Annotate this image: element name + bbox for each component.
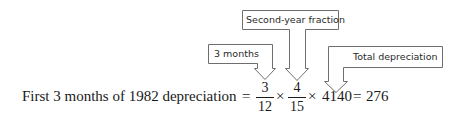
times-sign: × [276, 89, 284, 104]
fraction-numerator: 3 [256, 81, 274, 97]
fraction-three-twelfths: 3 12 [256, 81, 274, 114]
equals-sign: = [242, 89, 250, 104]
equals-sign: = [353, 89, 361, 104]
depreciation-figure: 3 months Second-year fraction Total depr… [0, 0, 467, 120]
fraction-four-fifteenths: 4 15 [288, 81, 306, 114]
second-year-fraction-label: Second-year fraction [246, 15, 345, 25]
fraction-numerator: 4 [288, 81, 306, 97]
total-value: 4140 [322, 89, 352, 104]
three-months-label: 3 months [214, 49, 259, 59]
times-sign: × [308, 89, 316, 104]
equation-lhs: First 3 months of 1982 depreciation [22, 89, 237, 104]
result-value: 276 [366, 89, 389, 104]
total-depreciation-label: Total depreciation [353, 52, 438, 62]
fraction-denominator: 15 [288, 98, 306, 114]
fraction-denominator: 12 [256, 98, 274, 114]
